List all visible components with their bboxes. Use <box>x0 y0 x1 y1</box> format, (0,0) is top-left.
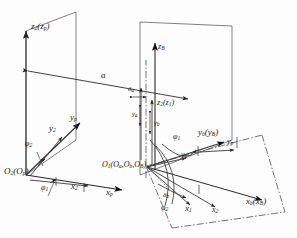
label-gamma-a: γa <box>132 111 138 118</box>
label-phi1-upper-right: φ1 <box>173 133 180 141</box>
label-zB: zB <box>158 43 165 51</box>
diagram-canvas: z2(zp) a zB δa z2(z1) γa γb yp y2 φ2 O2(… <box>0 0 297 238</box>
label-delta-a: δa <box>128 86 134 93</box>
label-O1-group: O1(Oa,Ob,OB) <box>102 161 146 169</box>
label-y1: y1 <box>181 151 187 159</box>
label-distance-a: a <box>101 71 106 80</box>
label-z2-zp: z2(zp) <box>31 22 50 31</box>
label-yp: yp <box>70 113 77 122</box>
label-x2-right: x2 <box>212 206 218 214</box>
label-phi1-lower-left: φ1 <box>41 184 48 192</box>
label-xb-xB: xb(xB) <box>246 197 266 206</box>
label-phi2-left: φ2 <box>25 140 32 148</box>
label-yp-right: yp <box>227 138 233 146</box>
label-phi2-right: φ2 <box>161 204 168 212</box>
label-yb-yB: yb(yB) <box>198 128 218 137</box>
distance-a-dimension <box>28 71 188 99</box>
label-z2-z1: z2(z1) <box>157 99 174 107</box>
label-x2-left: x2 <box>71 182 78 191</box>
label-x1: x1 <box>185 204 192 213</box>
label-delta-b: δb <box>163 192 169 199</box>
label-y2: y2 <box>49 124 56 133</box>
label-gamma-b: γb <box>154 120 160 127</box>
label-xp: xp <box>106 188 113 197</box>
label-O2-Op: O2(Op) <box>4 167 29 176</box>
